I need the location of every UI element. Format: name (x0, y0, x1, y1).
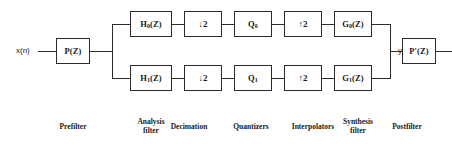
block-postfilter-label: P'(Z) (409, 47, 428, 56)
block-synthesis-filter-bottom-label: G1(Z) (342, 74, 363, 83)
caption-prefilter: Prefilter (38, 122, 108, 131)
wire-split-vertical (112, 24, 113, 79)
wire-split-to-analysis-top (112, 24, 130, 25)
block-decimator-bottom: ↓2 (184, 65, 222, 91)
wire-synthesis-bottom-to-merge (372, 78, 390, 79)
block-synthesis-filter-bottom: G1(Z) (334, 65, 372, 91)
block-quantizer-top: Q0 (234, 11, 272, 37)
wire-interpolator-to-synthesis-top (322, 24, 334, 25)
wire-analysis-to-decimator-bottom (172, 78, 184, 79)
block-analysis-filter-bottom-label: H1(Z) (140, 74, 161, 83)
block-interpolator-bottom-label: ↑2 (298, 74, 307, 83)
wire-analysis-to-decimator-top (172, 24, 184, 25)
block-synthesis-filter-top-label: G0(Z) (342, 20, 363, 29)
wire-synthesis-top-to-merge (372, 24, 390, 25)
block-decimator-top-label: ↓2 (198, 20, 207, 29)
block-interpolator-top-label: ↑2 (298, 20, 307, 29)
wire-interpolator-to-synthesis-bottom (322, 78, 334, 79)
block-analysis-filter-top: H0(Z) (130, 11, 172, 37)
wire-merge-to-postfilter (390, 51, 402, 52)
block-prefilter-label: P(Z) (65, 47, 82, 56)
block-analysis-filter-top-label: H0(Z) (140, 20, 161, 29)
block-analysis-filter-bottom: H1(Z) (130, 65, 172, 91)
block-prefilter: P(Z) (56, 38, 90, 64)
block-decimator-top: ↓2 (184, 11, 222, 37)
block-interpolator-top: ↑2 (284, 11, 322, 37)
block-postfilter: P'(Z) (402, 38, 436, 64)
wire-input-to-prefilter (38, 51, 56, 52)
block-decimator-bottom-label: ↓2 (198, 74, 207, 83)
wire-quantizer-to-interpolator-top (272, 24, 284, 25)
wire-postfilter-to-output (436, 51, 452, 52)
wire-split-to-analysis-bottom (112, 78, 130, 79)
block-quantizer-top-label: Q0 (248, 20, 258, 29)
block-synthesis-filter-top: G0(Z) (334, 11, 372, 37)
wire-decimator-to-quantizer-top (222, 24, 234, 25)
input-signal-label: x(n) (16, 47, 30, 55)
block-quantizer-bottom: Q1 (234, 65, 272, 91)
wire-quantizer-to-interpolator-bottom (272, 78, 284, 79)
caption-postfilter: Postfilter (376, 122, 438, 131)
wire-prefilter-to-split (90, 51, 112, 52)
block-interpolator-bottom: ↑2 (284, 65, 322, 91)
block-quantizer-bottom-label: Q1 (248, 74, 258, 83)
wire-decimator-to-quantizer-bottom (222, 78, 234, 79)
